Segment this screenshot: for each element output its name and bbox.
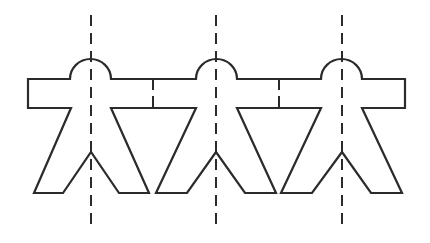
paper-doll-chain-diagram <box>0 0 430 243</box>
